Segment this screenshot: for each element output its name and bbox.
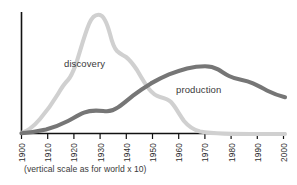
tick-label: 1970: [201, 143, 210, 162]
tick-label: 2000: [280, 143, 289, 162]
tick-label: 1960: [175, 143, 184, 162]
chart-plot-area: 1900 1910 1920 1930 1940 1950 1960 1970 …: [0, 0, 297, 185]
tick-label: 1950: [149, 143, 158, 162]
series-line-production: [22, 66, 286, 133]
series-line-discovery: [22, 15, 286, 134]
x-axis-tick-labels: 1900 1910 1920 1930 1940 1950 1960 1970 …: [18, 143, 289, 162]
tick-label: 1990: [254, 143, 263, 162]
tick-label: 1910: [44, 143, 53, 162]
tick-label: 1920: [70, 143, 79, 162]
series-label-discovery: discovery: [64, 58, 105, 69]
tick-label: 1930: [97, 143, 106, 162]
chart-container: 1900 1910 1920 1930 1940 1950 1960 1970 …: [0, 0, 297, 185]
tick-label: 1980: [228, 143, 237, 162]
tick-label: 1940: [123, 143, 132, 162]
chart-caption: (vertical scale as for world x 10): [24, 164, 147, 174]
series-label-production: production: [176, 84, 221, 95]
tick-label: 1900: [18, 143, 27, 162]
